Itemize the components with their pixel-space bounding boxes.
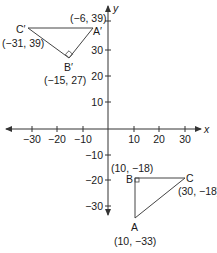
coord-label-c: (30, −18) <box>178 185 217 197</box>
y-tick-label: −10 <box>85 149 103 161</box>
coord-label-b-prime: (−15, 27) <box>44 74 86 86</box>
coordinate-plane: x −30 −20 −10 10 20 30 y 30 20 10 −10 −2… <box>0 0 217 253</box>
vertex-label-b-prime: B′ <box>64 61 73 73</box>
vertex-label-c-prime: C′ <box>16 23 26 35</box>
y-tick-label: −20 <box>85 174 103 186</box>
x-tick-label: 30 <box>179 133 191 145</box>
x-tick-label: −30 <box>23 133 41 145</box>
vertex-label-a-prime: A′ <box>93 25 102 37</box>
vertex-label-b: B <box>126 173 133 185</box>
x-tick-label: −20 <box>48 133 66 145</box>
coord-label-a: (10, −33) <box>114 235 156 247</box>
triangle-abc: B (10, −18) C (30, −18) A (10, −33) <box>111 162 217 247</box>
x-tick-label: −10 <box>74 133 92 145</box>
x-axis-label: x <box>203 123 210 135</box>
x-tick-label: 10 <box>128 133 140 145</box>
coord-label-c-prime: (−31, 39) <box>2 37 44 49</box>
vertex-label-c: C <box>186 172 194 184</box>
x-tick-label: 20 <box>153 133 165 145</box>
coord-label-a-prime: (−6, 39) <box>70 12 106 24</box>
vertex-label-a: A <box>131 221 138 233</box>
y-tick-label: 30 <box>91 44 103 56</box>
y-tick-label: −30 <box>85 200 103 212</box>
triangle-abc-shape <box>135 178 185 218</box>
coord-label-b: (10, −18) <box>111 162 153 174</box>
y-tick-label: 10 <box>91 96 103 108</box>
y-axis-label: y <box>112 2 119 14</box>
y-tick-label: 20 <box>91 70 103 82</box>
y-axis: y 30 20 10 −10 −20 −30 <box>85 2 119 215</box>
right-angle-marker-icon <box>135 178 139 182</box>
